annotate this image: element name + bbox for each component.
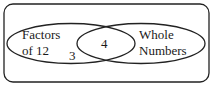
left-set-label-line1: Factors — [22, 27, 60, 42]
left-only-value: 3 — [69, 48, 76, 63]
left-set-label-line2: of 12 — [22, 43, 49, 58]
right-set-label-line2: Numbers — [139, 43, 187, 58]
intersection-value: 4 — [101, 36, 108, 51]
right-set-label-line1: Whole — [139, 27, 174, 42]
venn-diagram: Factors of 12 3 4 Whole Numbers — [0, 0, 213, 87]
